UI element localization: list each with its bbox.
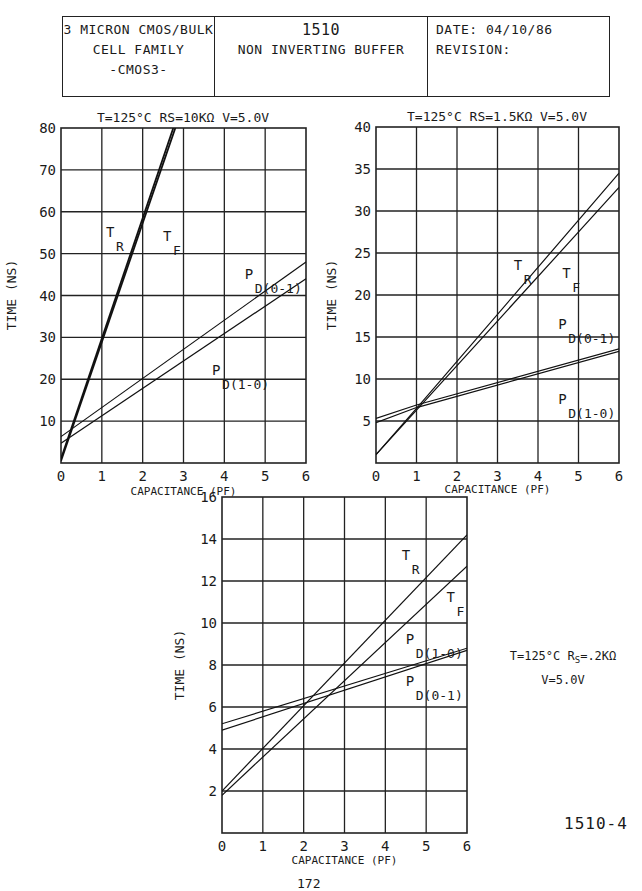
y-tick: 35: [354, 161, 371, 177]
annotation-tf-sub: F: [572, 280, 580, 295]
y-tick: 50: [39, 246, 56, 262]
annotation-pd1-0-main: P: [406, 631, 414, 647]
x-axis-label: CAPACITANCE (PF): [131, 485, 237, 498]
annotation-tr-main: T: [514, 257, 523, 273]
x-tick: 4: [220, 468, 228, 484]
annotation-pd1-0-sub: D(1-0): [416, 646, 463, 661]
chart-3: 0123456246810121416CAPACITANCE (PF)TIME …: [172, 489, 471, 867]
y-tick: 20: [39, 371, 56, 387]
x-tick: 0: [57, 468, 65, 484]
x-tick: 5: [422, 838, 430, 854]
x-tick: 6: [302, 468, 310, 484]
y-tick: 20: [354, 287, 371, 303]
y-tick: 70: [39, 162, 56, 178]
annotation-tr: TR: [402, 547, 420, 577]
chart3-conditions-line1: T=125°C RS=.2KΩ: [488, 646, 638, 670]
x-tick: 4: [534, 468, 542, 484]
annotation-tr: TR: [514, 257, 532, 287]
y-tick: 10: [200, 615, 217, 631]
annotation-tf: TF: [562, 265, 580, 295]
x-tick: 6: [463, 838, 471, 854]
y-axis-label: TIME (NS): [172, 630, 187, 700]
y-tick: 40: [39, 288, 56, 304]
y-tick: 8: [209, 657, 217, 673]
annotation-tf-sub: F: [457, 604, 465, 619]
y-tick: 60: [39, 204, 56, 220]
annotation-pd1-0-main: P: [558, 391, 566, 407]
chart-title: T=125°C RS=1.5KΩ V=5.0V: [407, 109, 587, 124]
annotation-pd1-0-sub: D(1-0): [568, 406, 615, 421]
annotation-pd0-1-main: P: [406, 673, 414, 689]
annotation-tf-main: T: [163, 228, 172, 244]
y-tick: 12: [200, 573, 217, 589]
y-tick: 16: [200, 489, 217, 505]
x-tick: 0: [218, 838, 226, 854]
annotation-pd0-1-sub: D(0-1): [416, 688, 463, 703]
annotation-pd1-0: PD(1-0): [558, 391, 615, 421]
annotation-tr: TR: [106, 224, 124, 254]
annotation-tr-sub: R: [412, 562, 420, 577]
chart-2: 0123456510152025303540CAPACITANCE (PF)TI…: [324, 109, 623, 496]
y-tick: 80: [39, 120, 56, 136]
chart3-conditions: T=125°C RS=.2KΩ V=5.0V: [488, 646, 638, 690]
y-tick: 2: [209, 783, 217, 799]
annotation-tf-main: T: [447, 589, 456, 605]
annotation-pd1-0: PD(1-0): [406, 631, 463, 661]
annotation-pd0-1-sub: D(0-1): [568, 331, 615, 346]
annotation-pd1-0: PD(1-0): [212, 362, 269, 392]
annotation-tf: TF: [447, 589, 465, 619]
y-tick: 15: [354, 329, 371, 345]
annotation-pd0-1: PD(0-1): [406, 673, 463, 703]
annotation-pd1-0-sub: D(1-0): [222, 377, 269, 392]
y-tick: 5: [363, 413, 371, 429]
x-tick: 1: [412, 468, 420, 484]
annotation-tf-main: T: [562, 265, 571, 281]
x-tick: 6: [615, 468, 623, 484]
annotation-pd1-0-main: P: [212, 362, 220, 378]
annotation-pd0-1: PD(0-1): [558, 316, 615, 346]
annotation-tf-sub: F: [173, 243, 181, 258]
annotation-pd0-1-main: P: [558, 316, 566, 332]
page-number: 172: [297, 876, 320, 891]
annotation-tr-main: T: [402, 547, 411, 563]
y-axis-label: TIME (NS): [324, 260, 339, 330]
grid: [222, 497, 467, 833]
annotation-pd0-1: PD(0-1): [245, 266, 302, 296]
annotation-pd0-1-main: P: [245, 266, 253, 282]
x-tick: 5: [574, 468, 582, 484]
y-tick: 30: [39, 329, 56, 345]
x-tick: 2: [138, 468, 146, 484]
y-tick: 14: [200, 531, 217, 547]
annotation-tr-main: T: [106, 224, 115, 240]
y-tick: 10: [39, 413, 56, 429]
annotation-tr-sub: R: [524, 272, 532, 287]
y-tick: 6: [209, 699, 217, 715]
chart-1: 01234561020304050607080CAPACITANCE (PF)T…: [4, 110, 310, 498]
x-tick: 5: [261, 468, 269, 484]
x-tick: 4: [381, 838, 389, 854]
x-axis-label: CAPACITANCE (PF): [445, 483, 551, 496]
x-tick: 3: [179, 468, 187, 484]
y-tick: 10: [354, 371, 371, 387]
y-tick: 30: [354, 203, 371, 219]
chart-title: T=125°C RS=10KΩ V=5.0V: [97, 110, 269, 125]
annotation-pd0-1-sub: D(0-1): [255, 281, 302, 296]
x-tick: 0: [372, 468, 380, 484]
series-tf: [61, 128, 175, 461]
chart3-conditions-line2: V=5.0V: [488, 670, 638, 690]
y-tick: 40: [354, 119, 371, 135]
x-tick: 2: [453, 468, 461, 484]
annotation-tr-sub: R: [116, 239, 124, 254]
x-tick: 2: [299, 838, 307, 854]
page-id: 1510-4: [564, 814, 628, 833]
x-tick: 1: [98, 468, 106, 484]
x-tick: 3: [340, 838, 348, 854]
y-tick: 4: [209, 741, 217, 757]
y-tick: 25: [354, 245, 371, 261]
x-tick: 3: [493, 468, 501, 484]
y-axis-label: TIME (NS): [4, 260, 19, 330]
x-axis-label: CAPACITANCE (PF): [292, 854, 398, 867]
x-tick: 1: [259, 838, 267, 854]
